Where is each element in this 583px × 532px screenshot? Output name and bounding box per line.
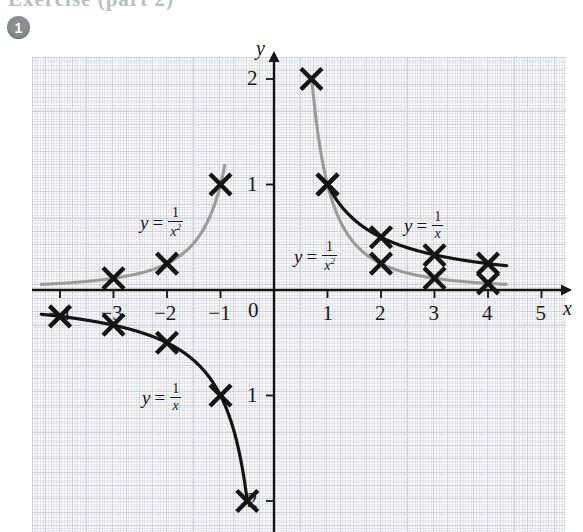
annotation-equals: =: [306, 247, 322, 266]
origin-label: 0: [248, 300, 259, 321]
y-tick-label-1: 1: [247, 174, 258, 195]
annotation-fraction: 1x: [432, 210, 443, 241]
fraction-numerator: 1: [324, 240, 335, 255]
x-tick-label--1: −1: [209, 303, 231, 324]
annotation-fraction: 1x2: [322, 240, 337, 273]
x-tick-label-4: 4: [482, 303, 493, 324]
fraction-denominator: x: [171, 398, 181, 413]
annotation-fraction: 1x: [170, 382, 181, 413]
data-point-marker-invsq-4: [317, 174, 338, 195]
fraction-denominator-exponent: 2: [176, 222, 181, 232]
x-tick-label--3: −3: [101, 303, 123, 324]
data-point-marker-recip-2: [157, 332, 178, 353]
fraction-denominator: x2: [322, 256, 337, 273]
x-tick-label-5: 5: [536, 303, 547, 324]
x-tick-label-3: 3: [429, 303, 440, 324]
x-tick-label-2: 2: [375, 303, 386, 324]
y-axis-name: y: [256, 38, 265, 58]
plot-overlay: [0, 0, 583, 532]
data-point-marker-invsq-1: [157, 253, 178, 274]
curve-annotation-a1: y=1x2: [140, 206, 183, 239]
x-tick-label--2: −2: [154, 303, 176, 324]
x-axis-arrowhead: [561, 285, 572, 296]
curve-annotation-a4: y=1x: [142, 382, 181, 413]
y-tick-label-2: 2: [247, 68, 258, 89]
annotation-variable: y: [140, 213, 152, 232]
annotation-variable: y: [294, 247, 306, 266]
x-tick-label--4: −4: [48, 303, 70, 324]
fraction-denominator-exponent: 2: [330, 256, 335, 266]
x-tick-label-1: 1: [323, 303, 334, 324]
annotation-variable: y: [404, 216, 416, 235]
annotation-variable: y: [142, 388, 154, 407]
y-tick-label-neg2: 2: [247, 490, 258, 511]
annotation-equals: =: [154, 388, 170, 407]
fraction-denominator: x: [433, 226, 443, 241]
x-axis-name: x: [563, 298, 572, 318]
curve-annotation-a3: y=1x: [404, 210, 443, 241]
curve-inverse-square-right: [312, 77, 507, 285]
annotation-equals: =: [152, 213, 168, 232]
axes-layer: [32, 51, 572, 532]
curve-inverse-square-left: [41, 165, 225, 284]
y-axis-arrowhead: [269, 51, 280, 62]
y-tick-label-neg1: 1: [247, 385, 258, 406]
annotation-equals: =: [416, 216, 432, 235]
data-point-marker-recip-6: [371, 227, 392, 248]
data-point-marker-invsq-2: [210, 174, 231, 195]
data-point-marker-invsq-5: [371, 253, 392, 274]
fraction-denominator: x2: [168, 222, 183, 239]
annotation-fraction: 1x2: [168, 206, 183, 239]
fraction-numerator: 1: [432, 210, 443, 225]
fraction-numerator: 1: [170, 206, 181, 221]
figure-root: Exercise (part 2) 1 −4−3−2−11234502112xy…: [0, 0, 583, 532]
curve-annotation-a2: y=1x2: [294, 240, 337, 273]
data-point-marker-recip-3: [210, 385, 231, 406]
fraction-numerator: 1: [170, 382, 181, 397]
